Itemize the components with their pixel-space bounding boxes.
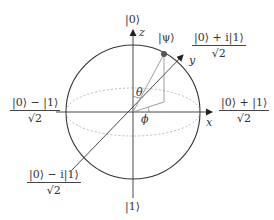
state-label-ket1: |1⟩ xyxy=(125,201,140,213)
y-axis xyxy=(72,55,183,170)
state-label-minus: |0⟩ − |1⟩ √2 xyxy=(10,97,60,125)
phi-arc xyxy=(148,107,149,112)
state-label-ket0: |0⟩ xyxy=(125,14,140,26)
angle-label-theta: θ xyxy=(136,87,143,99)
fraction-numerator: |0⟩ + |1⟩ xyxy=(219,97,269,111)
state-label-psi: |ψ⟩ xyxy=(158,32,175,44)
fraction-denominator: √2 xyxy=(28,111,42,125)
angle-label-phi: ϕ xyxy=(141,114,149,126)
fraction-denominator: √2 xyxy=(237,111,251,125)
fraction-numerator: |0⟩ − i|1⟩ xyxy=(27,169,81,183)
state-label-minus-i: |0⟩ − i|1⟩ √2 xyxy=(27,169,81,197)
axis-label-z: z xyxy=(139,27,145,39)
fraction-numerator: |0⟩ − |1⟩ xyxy=(10,97,60,111)
fraction-numerator: |0⟩ + i|1⟩ xyxy=(192,32,246,46)
state-point xyxy=(161,51,167,57)
state-label-plus: |0⟩ + |1⟩ √2 xyxy=(219,97,269,125)
state-label-plus-i: |0⟩ + i|1⟩ √2 xyxy=(192,32,246,60)
axis-label-x: x xyxy=(206,117,212,129)
fraction-denominator: √2 xyxy=(212,46,226,60)
fraction-denominator: √2 xyxy=(47,183,61,197)
